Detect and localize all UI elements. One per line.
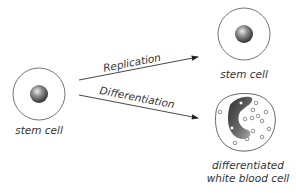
source-stem-cell [13,68,65,120]
replicated-cell-label: stem cell [209,68,279,80]
source-cell-label: stem cell [4,124,74,136]
wbc-label-line2: white blood cell [200,172,296,184]
wbc-label-line1: differentiated [200,159,296,171]
replicated-stem-cell [218,8,270,60]
white-blood-cell [216,94,276,152]
